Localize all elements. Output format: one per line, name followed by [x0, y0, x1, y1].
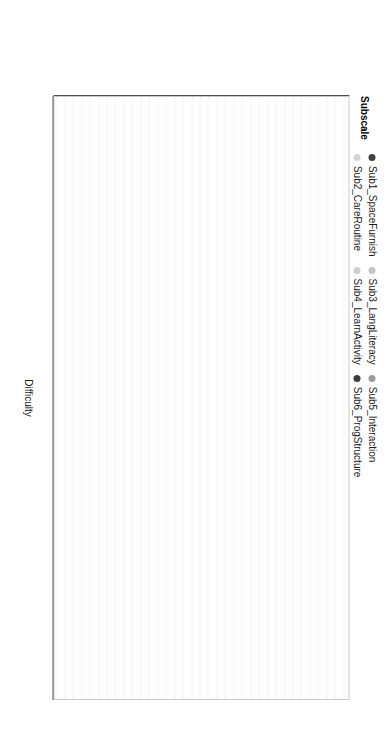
grid-row — [174, 97, 175, 699]
grid-row — [301, 97, 302, 699]
grid-row — [317, 97, 318, 699]
legend-swatch-sub4 — [353, 267, 360, 274]
legend: Subscale Sub1_SpaceFurnish Sub2_CareRout… — [351, 96, 377, 477]
x-axis-title: Difficulty — [22, 96, 33, 700]
grid-row — [241, 97, 242, 699]
grid-row — [165, 97, 166, 699]
grid-row — [275, 97, 276, 699]
legend-label-sub6: Sub6_ProgStructure — [351, 387, 362, 478]
legend-item-sub4[interactable]: Sub4_LearnActivity — [351, 267, 362, 365]
grid-row — [216, 97, 217, 699]
grid-row — [250, 97, 251, 699]
grid-row — [81, 97, 82, 699]
legend-item-sub5[interactable]: Sub5_Interaction — [366, 375, 377, 478]
legend-swatch-sub6 — [353, 375, 360, 382]
grid-row — [148, 97, 149, 699]
figure-frame: Subscale Sub1_SpaceFurnish Sub2_CareRout… — [0, 0, 385, 738]
grid-row — [72, 97, 73, 699]
grid-row — [207, 97, 208, 699]
grid-row — [114, 97, 115, 699]
grid-row — [123, 97, 124, 699]
legend-item-sub1[interactable]: Sub1_SpaceFurnish — [366, 154, 377, 257]
grid-row — [182, 97, 183, 699]
grid-row — [267, 97, 268, 699]
grid-row — [326, 97, 327, 699]
grid-row — [106, 97, 107, 699]
grid-row — [258, 97, 259, 699]
grid-row — [224, 97, 225, 699]
grid-row — [334, 97, 335, 699]
legend-column-1: Sub1_SpaceFurnish Sub2_CareRoutine — [351, 154, 377, 257]
legend-label-sub1: Sub1_SpaceFurnish — [366, 166, 377, 257]
grid-row — [55, 97, 56, 699]
legend-swatch-sub1 — [368, 154, 375, 161]
y-axis-line — [53, 95, 349, 96]
plot-panel — [53, 96, 349, 700]
legend-swatch-sub5 — [368, 375, 375, 382]
legend-label-sub3: Sub3_LangLiteracy — [366, 279, 377, 365]
grid-row — [131, 97, 132, 699]
dot-plot-figure: Subscale Sub1_SpaceFurnish Sub2_CareRout… — [0, 0, 385, 738]
legend-label-sub2: Sub2_CareRoutine — [351, 166, 362, 251]
legend-label-sub4: Sub4_LearnActivity — [351, 279, 362, 365]
legend-label-sub5: Sub5_Interaction — [366, 387, 377, 463]
legend-title: Subscale — [359, 96, 370, 140]
legend-item-sub2[interactable]: Sub2_CareRoutine — [351, 154, 362, 257]
grid-row — [191, 97, 192, 699]
grid-row — [64, 97, 65, 699]
x-axis-line — [52, 96, 53, 700]
grid-row — [89, 97, 90, 699]
legend-swatch-sub3 — [368, 267, 375, 274]
item-label-axis — [53, 0, 349, 93]
grid-row — [309, 97, 310, 699]
grid-row — [199, 97, 200, 699]
grid-row — [233, 97, 234, 699]
grid-row — [98, 97, 99, 699]
legend-item-sub3[interactable]: Sub3_LangLiteracy — [366, 267, 377, 365]
grid-row — [157, 97, 158, 699]
legend-column-3: Sub5_Interaction Sub6_ProgStructure — [351, 375, 377, 478]
legend-column-2: Sub3_LangLiteracy Sub4_LearnActivity — [351, 267, 377, 365]
grid-row — [284, 97, 285, 699]
legend-swatch-sub2 — [353, 154, 360, 161]
grid-row — [343, 97, 344, 699]
grid-row — [140, 97, 141, 699]
grid-row — [292, 97, 293, 699]
legend-item-sub6[interactable]: Sub6_ProgStructure — [351, 375, 362, 478]
